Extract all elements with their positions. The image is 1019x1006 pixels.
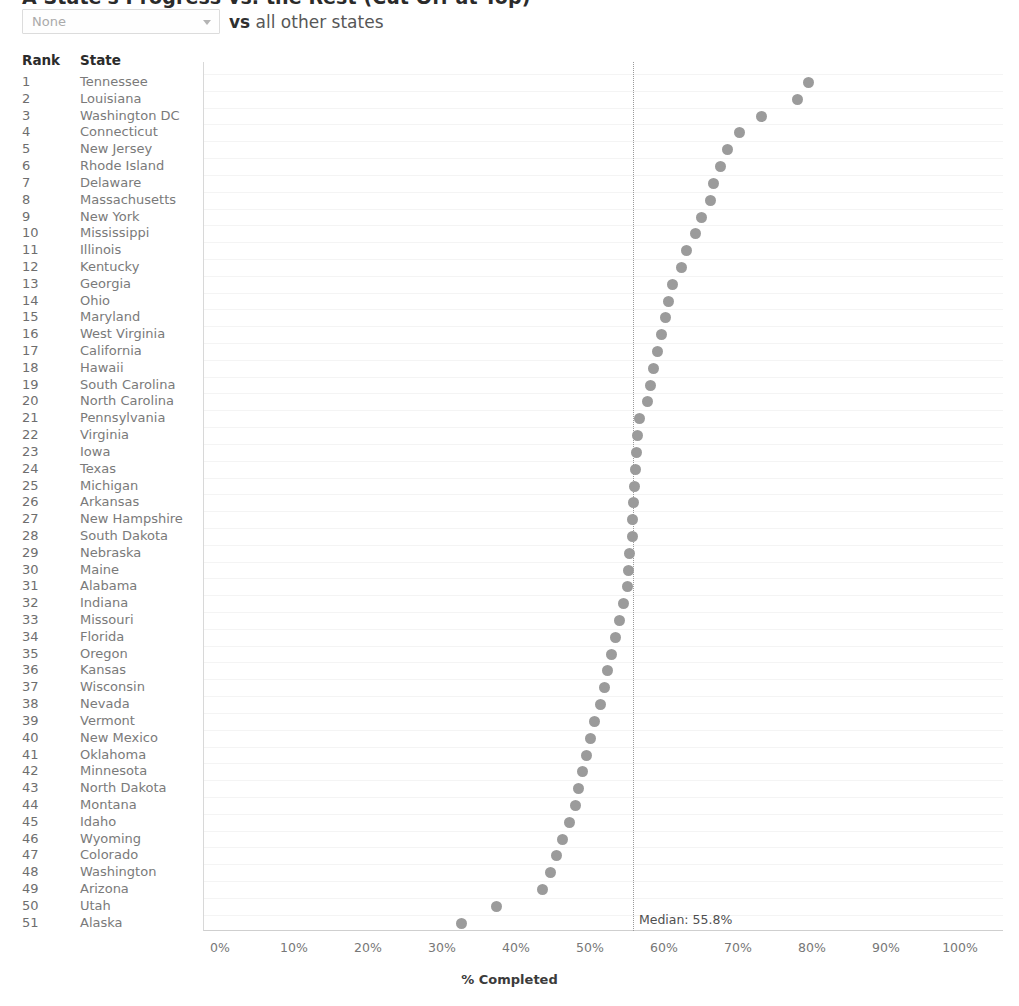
table-row[interactable]: 36Kansas [0,662,1019,679]
table-row[interactable]: 43North Dakota [0,780,1019,797]
table-row[interactable]: 28South Dakota [0,528,1019,545]
data-point-dot[interactable] [573,783,584,794]
data-point-dot[interactable] [660,312,671,323]
table-row[interactable]: 48Washington [0,864,1019,881]
table-row[interactable]: 18Hawaii [0,360,1019,377]
table-row[interactable]: 13Georgia [0,276,1019,293]
data-point-dot[interactable] [491,901,502,912]
data-point-dot[interactable] [456,918,467,929]
data-point-dot[interactable] [595,699,606,710]
data-point-dot[interactable] [792,94,803,105]
cell-rank: 39 [22,713,39,730]
table-row[interactable]: 39Vermont [0,713,1019,730]
data-point-dot[interactable] [581,750,592,761]
data-point-dot[interactable] [756,111,767,122]
data-point-dot[interactable] [715,161,726,172]
data-point-dot[interactable] [585,733,596,744]
data-point-dot[interactable] [618,598,629,609]
table-row[interactable]: 38Nevada [0,696,1019,713]
data-point-dot[interactable] [610,632,621,643]
table-row[interactable]: 34Florida [0,629,1019,646]
table-row[interactable]: 49Arizona [0,881,1019,898]
table-row[interactable]: 10Mississippi [0,225,1019,242]
table-row[interactable]: 20North Carolina [0,393,1019,410]
table-row[interactable]: 26Arkansas [0,494,1019,511]
table-row[interactable]: 22Virginia [0,427,1019,444]
table-row[interactable]: 29Nebraska [0,545,1019,562]
data-point-dot[interactable] [705,195,716,206]
table-row[interactable]: 30Maine [0,562,1019,579]
table-row[interactable]: 5New Jersey [0,141,1019,158]
data-point-dot[interactable] [648,363,659,374]
data-point-dot[interactable] [634,413,645,424]
data-point-dot[interactable] [652,346,663,357]
table-row[interactable]: 40New Mexico [0,730,1019,747]
table-row[interactable]: 42Minnesota [0,763,1019,780]
table-row[interactable]: 31Alabama [0,578,1019,595]
data-point-dot[interactable] [642,396,653,407]
data-point-dot[interactable] [629,481,640,492]
data-point-dot[interactable] [622,581,633,592]
table-row[interactable]: 51Alaska [0,915,1019,932]
row-gridline [203,797,1003,798]
table-row[interactable]: 37Wisconsin [0,679,1019,696]
data-point-dot[interactable] [564,817,575,828]
comparison-label: vs all other states [229,12,384,32]
table-row[interactable]: 12Kentucky [0,259,1019,276]
table-row[interactable]: 2Louisiana [0,91,1019,108]
table-row[interactable]: 9New York [0,209,1019,226]
data-point-dot[interactable] [614,615,625,626]
data-point-dot[interactable] [676,262,687,273]
table-row[interactable]: 17California [0,343,1019,360]
table-row[interactable]: 6Rhode Island [0,158,1019,175]
data-point-dot[interactable] [599,682,610,693]
table-row[interactable]: 24Texas [0,461,1019,478]
data-point-dot[interactable] [602,665,613,676]
data-point-dot[interactable] [663,296,674,307]
row-gridline [203,612,1003,613]
data-point-dot[interactable] [545,867,556,878]
table-row[interactable]: 50Utah [0,898,1019,915]
table-row[interactable]: 25Michigan [0,478,1019,495]
table-row[interactable]: 4Connecticut [0,124,1019,141]
table-row[interactable]: 23Iowa [0,444,1019,461]
table-row[interactable]: 11Illinois [0,242,1019,259]
data-point-dot[interactable] [681,245,692,256]
table-row[interactable]: 33Missouri [0,612,1019,629]
data-point-dot[interactable] [557,834,568,845]
data-point-dot[interactable] [667,279,678,290]
table-row[interactable]: 35Oregon [0,646,1019,663]
table-row[interactable]: 21Pennsylvania [0,410,1019,427]
x-axis-tick-label: 20% [354,940,382,955]
table-row[interactable]: 16West Virginia [0,326,1019,343]
table-row[interactable]: 1Tennessee [0,74,1019,91]
data-point-dot[interactable] [551,850,562,861]
table-row[interactable]: 8Massachusetts [0,192,1019,209]
data-point-dot[interactable] [696,212,707,223]
table-row[interactable]: 32Indiana [0,595,1019,612]
data-point-dot[interactable] [690,228,701,239]
table-row[interactable]: 46Wyoming [0,831,1019,848]
data-point-dot[interactable] [734,127,745,138]
table-row[interactable]: 3Washington DC [0,108,1019,125]
data-point-dot[interactable] [722,144,733,155]
table-row[interactable]: 19South Carolina [0,377,1019,394]
state-selector-dropdown[interactable]: None [22,9,220,34]
table-row[interactable]: 47Colorado [0,847,1019,864]
table-row[interactable]: 7Delaware [0,175,1019,192]
table-row[interactable]: 41Oklahoma [0,747,1019,764]
table-row[interactable]: 14Ohio [0,293,1019,310]
data-point-dot[interactable] [803,77,814,88]
data-point-dot[interactable] [708,178,719,189]
table-row[interactable]: 45Idaho [0,814,1019,831]
data-point-dot[interactable] [577,766,588,777]
table-row[interactable]: 15Maryland [0,309,1019,326]
data-point-dot[interactable] [570,800,581,811]
data-point-dot[interactable] [589,716,600,727]
data-point-dot[interactable] [537,884,548,895]
data-point-dot[interactable] [656,329,667,340]
data-point-dot[interactable] [606,649,617,660]
data-point-dot[interactable] [645,380,656,391]
table-row[interactable]: 27New Hampshire [0,511,1019,528]
table-row[interactable]: 44Montana [0,797,1019,814]
